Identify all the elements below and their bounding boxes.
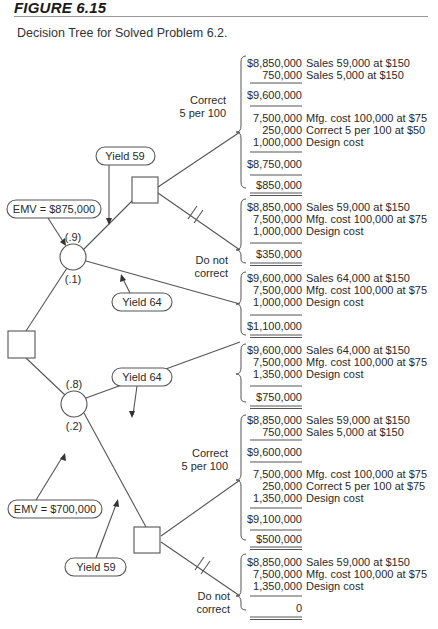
- svg-text:Mfg. cost 100,000 at $75: Mfg. cost 100,000 at $75: [306, 284, 427, 296]
- svg-text:1,350,000: 1,350,000: [253, 580, 302, 592]
- svg-text:$9,600,000: $9,600,000: [247, 446, 302, 458]
- svg-text:1,000,000: 1,000,000: [253, 136, 302, 148]
- svg-text:Mfg. cost 100,000 at $75: Mfg. cost 100,000 at $75: [306, 213, 427, 225]
- brace-3: [236, 272, 246, 335]
- svg-text:750,000: 750,000: [262, 426, 302, 438]
- svg-text:Design cost: Design cost: [306, 225, 363, 237]
- brace-4: [236, 344, 246, 402]
- result-value: 0: [296, 602, 302, 614]
- svg-text:7,500,000: 7,500,000: [253, 112, 302, 124]
- svg-text:$9,600,000: $9,600,000: [247, 344, 302, 356]
- bottom-decision-node: [134, 527, 160, 553]
- brace-2: [236, 199, 246, 263]
- svg-text:Sales 59,000 at $150: Sales 59,000 at $150: [306, 556, 410, 568]
- outcome-block-bottom-yield59-correct: $8,850,000 Sales 59,000 at $150 750,000 …: [247, 414, 427, 545]
- svg-text:Mfg. cost 100,000 at $75: Mfg. cost 100,000 at $75: [306, 112, 427, 124]
- correct-label-bottom-2: 5 per 100: [182, 460, 228, 472]
- svg-text:7,500,000: 7,500,000: [253, 284, 302, 296]
- svg-text:Design cost: Design cost: [306, 368, 363, 380]
- result-value: $750,000: [256, 391, 302, 403]
- svg-text:Sales 59,000 at $150: Sales 59,000 at $150: [306, 414, 410, 426]
- outcome-block-top-yield59-correct: $8,850,000 Sales 59,000 at $150 750,000 …: [247, 57, 427, 191]
- top-decision-node: [132, 177, 158, 203]
- prob-bottom-upper: (.8): [66, 378, 83, 390]
- svg-text:750,000: 750,000: [262, 69, 302, 81]
- svg-text:$9,600,000: $9,600,000: [247, 272, 302, 284]
- outcome-block-bottom-yield59-donot: $8,850,000 Sales 59,000 at $150 7,500,00…: [247, 556, 427, 614]
- correct-label-top-2: 5 per 100: [180, 107, 226, 119]
- svg-text:Sales 59,000 at $150: Sales 59,000 at $150: [306, 201, 410, 213]
- svg-text:1,000,000: 1,000,000: [253, 225, 302, 237]
- brace-6: [236, 554, 246, 610]
- svg-text:Design cost: Design cost: [306, 296, 363, 308]
- svg-text:Mfg. cost 100,000 at $75: Mfg. cost 100,000 at $75: [306, 468, 427, 480]
- correct-label-top-1: Correct: [190, 94, 226, 106]
- arrowhead: [113, 499, 119, 507]
- svg-text:Sales 5,000 at $150: Sales 5,000 at $150: [306, 69, 404, 81]
- svg-text:$9,100,000: $9,100,000: [247, 513, 302, 525]
- branch-root-to-bottom-chance: [26, 358, 66, 396]
- svg-text:Mfg. cost 100,000 at $75: Mfg. cost 100,000 at $75: [306, 356, 427, 368]
- arrowhead: [120, 274, 126, 282]
- result-value: $350,000: [256, 248, 302, 260]
- yield64-label-bottom: Yield 64: [122, 371, 161, 383]
- svg-text:Design cost: Design cost: [306, 492, 363, 504]
- svg-text:7,500,000: 7,500,000: [253, 356, 302, 368]
- svg-text:Design cost: Design cost: [306, 136, 363, 148]
- donot-label-bottom-2: correct: [196, 603, 230, 615]
- svg-text:$8,750,000: $8,750,000: [247, 158, 302, 170]
- svg-text:$8,850,000: $8,850,000: [247, 556, 302, 568]
- svg-text:250,000: 250,000: [262, 480, 302, 492]
- emv-label-bottom: EMV = $700,000: [14, 503, 96, 515]
- svg-text:1,350,000: 1,350,000: [253, 492, 302, 504]
- brace-5: [236, 415, 246, 540]
- branch-top-donot: [158, 193, 240, 250]
- result-value: $500,000: [256, 533, 302, 545]
- correct-label-bottom-1: Correct: [192, 447, 228, 459]
- result-value: $850,000: [256, 179, 302, 191]
- svg-text:7,500,000: 7,500,000: [253, 568, 302, 580]
- svg-text:Sales 64,000 at $150: Sales 64,000 at $150: [306, 344, 410, 356]
- donot-label-top-2: correct: [194, 267, 228, 279]
- result-value: $1,100,000: [247, 320, 302, 332]
- root-decision-node: [8, 331, 35, 358]
- prob-bottom-lower: (.2): [66, 420, 83, 432]
- pointer-emv-top: [48, 218, 64, 243]
- svg-text:$8,850,000: $8,850,000: [247, 201, 302, 213]
- svg-text:Mfg. cost 100,000 at $75: Mfg. cost 100,000 at $75: [306, 568, 427, 580]
- svg-text:$9,600,000: $9,600,000: [247, 89, 302, 101]
- donot-label-top-1: Do not: [196, 254, 228, 266]
- outcome-block-top-yield64: $9,600,000 Sales 64,000 at $150 7,500,00…: [247, 272, 427, 332]
- svg-text:7,500,000: 7,500,000: [253, 468, 302, 480]
- pointer-emv-bottom: [36, 456, 63, 500]
- svg-text:1,350,000: 1,350,000: [253, 368, 302, 380]
- bottom-chance-node: [61, 391, 87, 417]
- decision-tree-diagram: Yield 59 EMV = $875,000 Yield 64 Yield 6…: [0, 0, 438, 629]
- svg-text:1,000,000: 1,000,000: [253, 296, 302, 308]
- branch-bottom-donot: [161, 542, 240, 596]
- svg-text:250,000: 250,000: [262, 124, 302, 136]
- yield59-label-bottom: Yield 59: [76, 561, 115, 573]
- svg-text:7,500,000: 7,500,000: [253, 213, 302, 225]
- svg-text:Correct 5 per 100 at $75: Correct 5 per 100 at $75: [306, 480, 425, 492]
- svg-text:Sales 5,000 at $150: Sales 5,000 at $150: [306, 426, 404, 438]
- branch-bottom-correct: [161, 480, 240, 536]
- branch-root-to-top-chance: [26, 268, 67, 331]
- prob-top-lower: (.1): [65, 273, 82, 285]
- svg-text:Design cost: Design cost: [306, 580, 363, 592]
- yield59-label-top: Yield 59: [105, 150, 144, 162]
- outcome-block-top-yield59-donot: $8,850,000 Sales 59,000 at $150 7,500,00…: [247, 201, 427, 260]
- svg-text:$8,850,000: $8,850,000: [247, 414, 302, 426]
- donot-label-bottom-1: Do not: [198, 590, 230, 602]
- svg-text:Correct 5 per 100 at $50: Correct 5 per 100 at $50: [306, 124, 425, 136]
- outcome-block-bottom-yield64: $9,600,000 Sales 64,000 at $150 7,500,00…: [247, 344, 427, 403]
- pointer-yield64-bottom: [133, 386, 137, 415]
- arrowhead: [129, 411, 135, 418]
- svg-text:$8,850,000: $8,850,000: [247, 57, 302, 69]
- branch-top-correct: [158, 132, 240, 187]
- svg-text:Sales 64,000 at $150: Sales 64,000 at $150: [306, 272, 410, 284]
- yield64-label-top: Yield 64: [122, 296, 161, 308]
- emv-label-top: EMV = $875,000: [13, 203, 95, 215]
- brace-1: [236, 56, 246, 188]
- prob-top-upper: (.9): [65, 231, 82, 243]
